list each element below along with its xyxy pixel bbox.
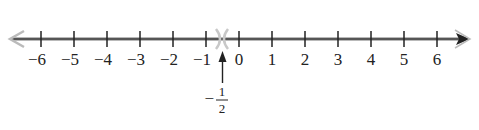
pointer-arrow-icon bbox=[219, 51, 227, 83]
tick-labels: −6−5−4−3−2−10123456 bbox=[28, 50, 441, 69]
tick-label: 5 bbox=[400, 50, 409, 69]
tick-label: 2 bbox=[301, 50, 310, 69]
tick-label: −2 bbox=[160, 50, 178, 69]
fraction-denominator: 2 bbox=[219, 101, 226, 116]
point-label-fraction: − 1 2 bbox=[204, 84, 228, 116]
tick-label: −6 bbox=[28, 50, 46, 69]
tick-label: 3 bbox=[334, 50, 343, 69]
tick-label: 4 bbox=[367, 50, 376, 69]
tick-label: 6 bbox=[433, 50, 442, 69]
tick-label: −3 bbox=[127, 50, 145, 69]
tick-label: −1 bbox=[193, 50, 211, 69]
tick-label: −4 bbox=[94, 50, 113, 69]
tick-label: −5 bbox=[61, 50, 79, 69]
number-line-diagram: −6−5−4−3−2−10123456 − 1 2 bbox=[0, 0, 479, 130]
fraction-numerator: 1 bbox=[219, 84, 226, 99]
fraction-sign: − bbox=[204, 89, 214, 108]
tick-label: 0 bbox=[235, 50, 244, 69]
tick-label: 1 bbox=[268, 50, 277, 69]
